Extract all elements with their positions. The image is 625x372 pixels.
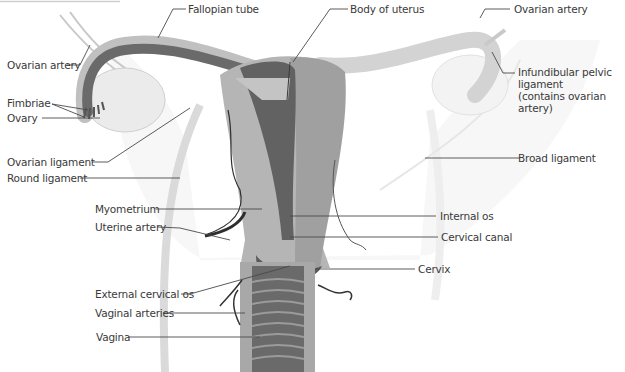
label-vaginal-arteries: Vaginal arteries xyxy=(95,307,174,319)
label-broad-ligament: Broad ligament xyxy=(518,152,596,164)
label-body-of-uterus: Body of uterus xyxy=(350,3,424,15)
label-ovary: Ovary xyxy=(7,112,37,124)
label-internal-os: Internal os xyxy=(440,210,494,222)
label-uterine-artery: Uterine artery xyxy=(95,221,166,233)
uterus-right-half xyxy=(290,57,346,268)
label-vagina: Vagina xyxy=(96,331,130,343)
label-ovarian-artery-left: Ovarian artery xyxy=(7,59,81,71)
label-infundibular-pelvic-ligament: Infundibular pelvic ligament (contains o… xyxy=(518,66,625,114)
vaginal-arteries-left xyxy=(220,280,242,325)
label-ovarian-ligament: Ovarian ligament xyxy=(7,156,95,168)
label-round-ligament: Round ligament xyxy=(7,172,87,184)
label-ovarian-artery-right: Ovarian artery xyxy=(514,3,588,15)
ovary-left xyxy=(85,68,165,132)
label-fimbriae: Fimbriae xyxy=(7,97,51,109)
label-myometrium: Myometrium xyxy=(95,203,160,215)
anatomy-illustration xyxy=(0,0,625,372)
label-fallopian-tube: Fallopian tube xyxy=(188,3,259,15)
label-external-cervical-os: External cervical os xyxy=(95,288,194,300)
uterine-artery-right xyxy=(333,160,366,250)
label-cervical-canal: Cervical canal xyxy=(441,231,512,243)
vaginal-arteries-right xyxy=(318,285,352,300)
label-cervix: Cervix xyxy=(418,263,450,275)
